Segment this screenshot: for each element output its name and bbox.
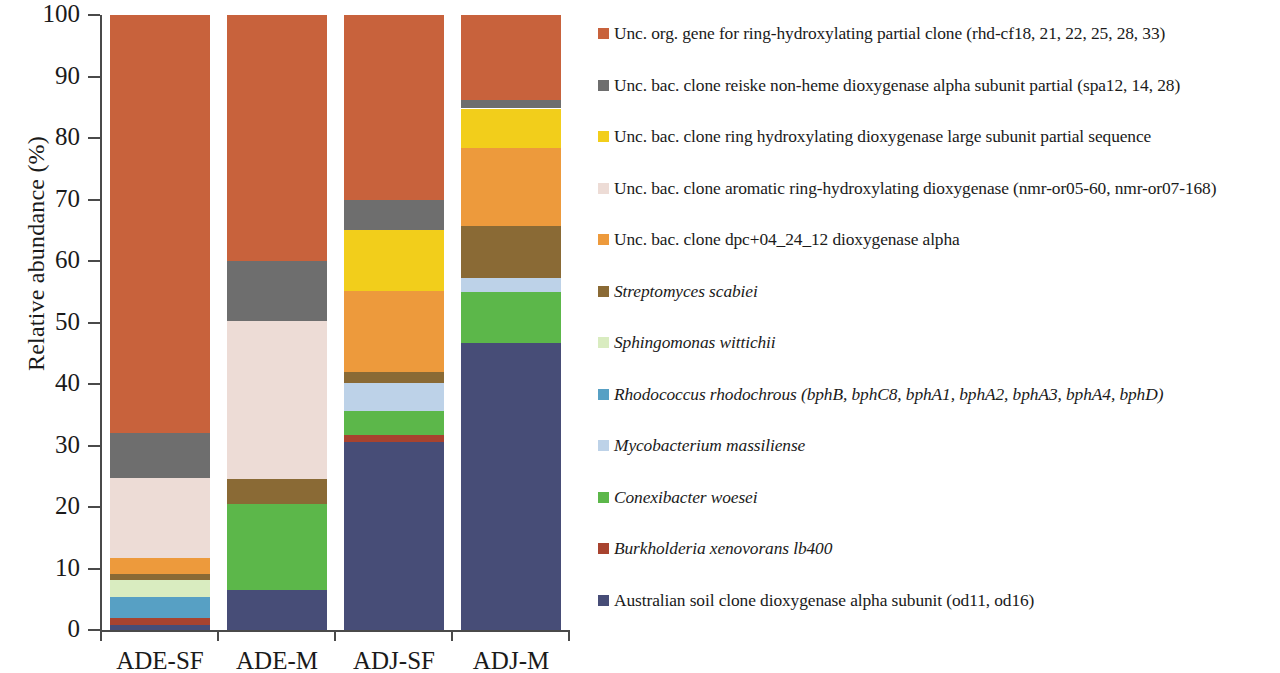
y-tick-label: 30 bbox=[55, 431, 80, 459]
stacked-bar bbox=[461, 15, 561, 630]
legend-swatch-icon bbox=[598, 234, 609, 245]
legend-swatch-icon bbox=[598, 440, 609, 451]
y-tick-mark bbox=[88, 445, 100, 447]
legend-item[interactable]: Sphingomonas wittichii bbox=[598, 331, 776, 353]
legend-swatch-icon bbox=[598, 595, 609, 606]
legend-label: Unc. bac. clone dpc+04_24_12 dioxygenase… bbox=[614, 228, 960, 250]
y-tick-mark bbox=[88, 568, 100, 570]
legend-label: Burkholderia xenovorans lb400 bbox=[614, 537, 832, 559]
bar-segment bbox=[344, 411, 444, 435]
y-tick-label: 70 bbox=[55, 185, 80, 213]
legend-swatch-icon bbox=[598, 492, 609, 503]
legend-item[interactable]: Conexibacter woesei bbox=[598, 486, 757, 508]
y-tick-label: 10 bbox=[55, 554, 80, 582]
bar-segment bbox=[461, 343, 561, 630]
bar-segment bbox=[110, 433, 210, 478]
bar-segment bbox=[227, 590, 327, 630]
y-tick-mark bbox=[88, 76, 100, 78]
legend-swatch-icon bbox=[598, 28, 609, 39]
y-tick-label: 60 bbox=[55, 246, 80, 274]
legend-label: Australian soil clone dioxygenase alpha … bbox=[614, 589, 1034, 611]
x-tick bbox=[451, 630, 453, 641]
legend-label: Sphingomonas wittichii bbox=[614, 331, 776, 353]
x-axis-label: ADE-M bbox=[213, 647, 341, 673]
y-tick-mark bbox=[88, 506, 100, 508]
legend-label: Conexibacter woesei bbox=[614, 486, 757, 508]
bar-segment bbox=[461, 100, 561, 109]
y-axis-title: Relative abundance (%) bbox=[23, 94, 50, 414]
y-tick-mark bbox=[88, 137, 100, 139]
legend-item[interactable]: Unc. bac. clone ring hydroxylating dioxy… bbox=[598, 125, 1151, 147]
y-tick-mark bbox=[88, 629, 100, 631]
legend-label: Streptomyces scabiei bbox=[614, 280, 758, 302]
legend-swatch-icon bbox=[598, 183, 609, 194]
bar-segment bbox=[344, 200, 444, 231]
bar-segment bbox=[461, 278, 561, 292]
legend-item[interactable]: Streptomyces scabiei bbox=[598, 280, 758, 302]
bar-segment bbox=[344, 372, 444, 384]
bar-segment bbox=[227, 479, 327, 504]
legend-item[interactable]: Australian soil clone dioxygenase alpha … bbox=[598, 589, 1034, 611]
y-tick-label: 90 bbox=[55, 62, 80, 90]
bar-segment bbox=[227, 261, 327, 321]
x-tick bbox=[217, 630, 219, 641]
legend-item[interactable]: Mycobacterium massiliense bbox=[598, 434, 805, 456]
stacked-bar bbox=[110, 15, 210, 630]
bar-segment bbox=[344, 15, 444, 200]
bar-segment bbox=[110, 580, 210, 597]
x-axis-label: ADJ-SF bbox=[330, 647, 458, 673]
legend-label: Rhodococcus rhodochrous (bphB, bphC8, bp… bbox=[614, 383, 1163, 405]
y-tick-mark bbox=[88, 14, 100, 16]
legend-item[interactable]: Rhodococcus rhodochrous (bphB, bphC8, bp… bbox=[598, 383, 1163, 405]
y-tick-label: 50 bbox=[55, 308, 80, 336]
legend-swatch-icon bbox=[598, 337, 609, 348]
x-axis-label: ADJ-M bbox=[447, 647, 575, 673]
legend-swatch-icon bbox=[598, 131, 609, 142]
bar-segment bbox=[344, 383, 444, 411]
legend-label: Unc. org. gene for ring-hydroxylating pa… bbox=[614, 22, 1165, 44]
legend-item[interactable]: Unc. org. gene for ring-hydroxylating pa… bbox=[598, 22, 1165, 44]
y-tick-label: 40 bbox=[55, 369, 80, 397]
stacked-bar bbox=[344, 15, 444, 630]
legend-label: Unc. bac. clone ring hydroxylating dioxy… bbox=[614, 125, 1151, 147]
legend-item[interactable]: Unc. bac. clone dpc+04_24_12 dioxygenase… bbox=[598, 228, 960, 250]
legend-label: Mycobacterium massiliense bbox=[614, 434, 805, 456]
y-tick-label: 20 bbox=[55, 492, 80, 520]
bar-segment bbox=[344, 291, 444, 372]
bar-segment bbox=[461, 226, 561, 278]
legend-item[interactable]: Unc. bac. clone reiske non-heme dioxygen… bbox=[598, 74, 1180, 96]
x-tick bbox=[100, 630, 102, 641]
bar-segment bbox=[227, 15, 327, 261]
bar-segment bbox=[344, 230, 444, 290]
legend-swatch-icon bbox=[598, 543, 609, 554]
plot-area: 0102030405060708090100 ADE-SFADE-MADJ-SF… bbox=[106, 15, 570, 630]
bar-segment bbox=[110, 15, 210, 433]
bar-segment bbox=[461, 15, 561, 100]
legend-item[interactable]: Burkholderia xenovorans lb400 bbox=[598, 537, 832, 559]
y-tick-mark bbox=[88, 260, 100, 262]
legend: Unc. org. gene for ring-hydroxylating pa… bbox=[598, 22, 1274, 642]
bar-segment bbox=[110, 558, 210, 574]
legend-swatch-icon bbox=[598, 286, 609, 297]
bar-segment bbox=[344, 442, 444, 630]
bar-segment bbox=[110, 597, 210, 617]
legend-swatch-icon bbox=[598, 80, 609, 91]
bar-segment bbox=[461, 148, 561, 225]
y-tick-label: 100 bbox=[43, 0, 81, 28]
legend-item[interactable]: Unc. bac. clone aromatic ring-hydroxylat… bbox=[598, 177, 1216, 199]
y-tick-label: 80 bbox=[55, 123, 80, 151]
bar-segment bbox=[227, 321, 327, 480]
legend-swatch-icon bbox=[598, 389, 609, 400]
bar-segment bbox=[227, 504, 327, 590]
x-axis-label: ADE-SF bbox=[96, 647, 224, 673]
bar-segment bbox=[461, 292, 561, 343]
bar-segment bbox=[110, 574, 210, 580]
x-tick bbox=[568, 630, 570, 641]
y-axis-line bbox=[100, 15, 102, 631]
y-tick-mark bbox=[88, 199, 100, 201]
bar-segment bbox=[110, 478, 210, 558]
bar-segment bbox=[461, 109, 561, 149]
stacked-bar bbox=[227, 15, 327, 630]
y-tick-mark bbox=[88, 383, 100, 385]
